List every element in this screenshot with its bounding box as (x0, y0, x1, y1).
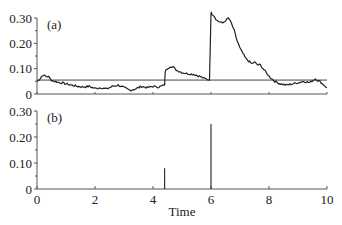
panel-b: 00.100.200.30 0246810 (b) Time (9, 104, 333, 220)
y-tick-label: 0.20 (9, 130, 32, 145)
y-tick-label: 0.10 (9, 61, 32, 76)
x-tick-label: 2 (92, 192, 99, 207)
y-tick-label: 0 (26, 182, 33, 197)
panel-a: 00.100.200.30 (a) (9, 11, 327, 102)
x-tick-label: 8 (266, 192, 273, 207)
panel-label-a: (a) (47, 17, 61, 32)
x-tick-label: 0 (34, 192, 41, 207)
x-axis-title: Time (169, 204, 196, 219)
y-tick-label: 0.20 (9, 36, 32, 51)
signal-line (37, 12, 327, 91)
panel-label-b: (b) (47, 110, 62, 125)
x-tick-label: 6 (208, 192, 215, 207)
x-tick-label: 4 (150, 192, 157, 207)
spikes (165, 124, 211, 189)
y-tick-label: 0 (26, 87, 33, 102)
y-ticks-a: 00.100.200.30 (9, 11, 37, 102)
y-tick-label: 0.30 (9, 11, 32, 26)
y-tick-label: 0.30 (9, 104, 32, 119)
x-tick-label: 10 (321, 192, 334, 207)
y-tick-label: 0.10 (9, 156, 32, 171)
y-ticks-b: 00.100.200.30 (9, 104, 37, 197)
chart-figure: 00.100.200.30 (a) 00.100.200.30 0246810 … (0, 0, 342, 225)
